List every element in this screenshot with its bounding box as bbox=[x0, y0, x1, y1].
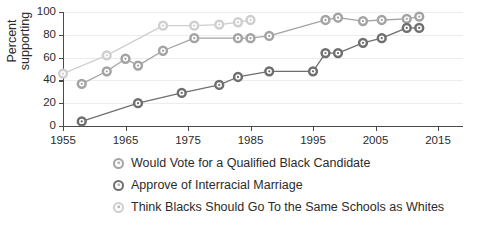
data-point-center bbox=[406, 18, 408, 20]
series-line bbox=[82, 17, 420, 84]
y-tick-label: 0 bbox=[50, 120, 56, 132]
x-tick-label: 2015 bbox=[425, 134, 451, 146]
data-point-center bbox=[137, 102, 139, 104]
data-point-center bbox=[324, 19, 326, 21]
data-point-center bbox=[162, 25, 164, 27]
data-point-center bbox=[249, 37, 251, 39]
legend-item-1[interactable]: Approve of Interracial Marriage bbox=[113, 174, 463, 196]
data-point-center bbox=[312, 70, 314, 72]
x-tick-mark bbox=[313, 126, 314, 131]
y-tick-label: 60 bbox=[43, 52, 56, 64]
data-point-center bbox=[418, 15, 420, 17]
legend-label: Approve of Interracial Marriage bbox=[131, 179, 303, 192]
x-axis-line bbox=[63, 126, 463, 127]
data-point-center bbox=[418, 27, 420, 29]
data-point-center bbox=[381, 19, 383, 21]
data-point-center bbox=[337, 17, 339, 19]
data-point-center bbox=[268, 70, 270, 72]
data-point-center bbox=[81, 120, 83, 122]
data-point-center bbox=[381, 37, 383, 39]
data-point-center bbox=[324, 52, 326, 54]
legend-marker-icon bbox=[113, 202, 124, 213]
y-tick-label: 100 bbox=[37, 6, 56, 18]
x-tick-mark bbox=[63, 126, 64, 131]
data-point-center bbox=[237, 21, 239, 23]
data-point-center bbox=[249, 19, 251, 21]
data-point-center bbox=[218, 23, 220, 25]
data-point-center bbox=[62, 72, 64, 74]
data-point-center bbox=[406, 27, 408, 29]
data-point-center bbox=[268, 35, 270, 37]
x-tick-label: 1975 bbox=[175, 134, 201, 146]
data-point-center bbox=[106, 70, 108, 72]
legend-label: Would Vote for a Qualified Black Candida… bbox=[131, 157, 371, 170]
y-tick-label: 80 bbox=[43, 29, 56, 41]
data-point-center bbox=[362, 20, 364, 22]
data-point-center bbox=[193, 37, 195, 39]
data-point-center bbox=[106, 54, 108, 56]
x-tick-mark bbox=[438, 126, 439, 131]
y-axis-title: Percent supporting bbox=[4, 0, 34, 96]
data-point-center bbox=[237, 37, 239, 39]
chart-figure: Percent supporting 020406080100 19551965… bbox=[0, 0, 477, 234]
legend-item-0[interactable]: Would Vote for a Qualified Black Candida… bbox=[113, 152, 463, 174]
data-point-center bbox=[162, 50, 164, 52]
x-tick-label: 1985 bbox=[238, 134, 264, 146]
data-point-center bbox=[237, 76, 239, 78]
x-tick-label: 1955 bbox=[50, 134, 76, 146]
data-point-center bbox=[193, 25, 195, 27]
data-point-center bbox=[362, 42, 364, 44]
legend-marker-icon bbox=[113, 180, 124, 191]
y-tick-label: 40 bbox=[43, 74, 56, 86]
legend-item-2[interactable]: Think Blacks Should Go To the Same Schoo… bbox=[113, 196, 463, 218]
series-2 bbox=[59, 16, 254, 77]
legend-label: Think Blacks Should Go To the Same Schoo… bbox=[131, 201, 444, 214]
legend-marker-icon bbox=[113, 158, 124, 169]
x-tick-mark bbox=[126, 126, 127, 131]
x-tick-mark bbox=[188, 126, 189, 131]
plot-area: 020406080100 195519651975198519952005201… bbox=[63, 12, 463, 126]
data-point-center bbox=[218, 84, 220, 86]
data-point-center bbox=[337, 52, 339, 54]
data-point-center bbox=[181, 92, 183, 94]
x-tick-mark bbox=[376, 126, 377, 131]
data-series-layer bbox=[63, 12, 463, 126]
data-point-center bbox=[137, 64, 139, 66]
x-tick-label: 1965 bbox=[113, 134, 139, 146]
chart-legend: Would Vote for a Qualified Black Candida… bbox=[113, 152, 463, 218]
x-tick-label: 2005 bbox=[363, 134, 389, 146]
y-tick-label: 20 bbox=[43, 97, 56, 109]
x-tick-label: 1995 bbox=[300, 134, 326, 146]
data-point-center bbox=[81, 83, 83, 85]
x-tick-mark bbox=[251, 126, 252, 131]
data-point-center bbox=[124, 58, 126, 60]
